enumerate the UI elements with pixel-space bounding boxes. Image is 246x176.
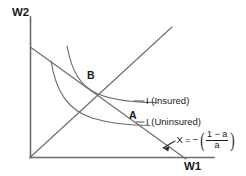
curve-label-insured: I (Insured): [146, 96, 189, 106]
point-label-a: A: [129, 110, 137, 121]
axis-label-w1: W1: [184, 161, 201, 173]
slope-fraction: 1 − a a: [206, 130, 228, 150]
slope-minus-sign: −: [192, 135, 198, 145]
indifference-curve-diagram: W2 W1 B A I (Insured) I (Uninsured) X = …: [0, 0, 246, 176]
slope-variable: X: [177, 135, 183, 145]
certainty-line-45-degree: [31, 27, 173, 157]
axis-label-w2: W2: [12, 7, 29, 19]
slope-annotation: X = − ( 1 − a a ): [176, 130, 236, 150]
point-label-b: B: [87, 70, 95, 81]
slope-equals-sign: =: [185, 135, 191, 145]
slope-denominator: a: [214, 141, 221, 151]
slope-close-paren: ): [230, 132, 234, 148]
curve-label-uninsured: I (Uninsured): [146, 117, 201, 127]
slope-numerator: 1 − a: [206, 130, 228, 140]
slope-open-paren: (: [200, 132, 204, 148]
